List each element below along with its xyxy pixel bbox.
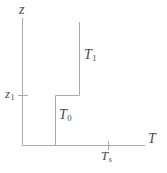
z-axis-label: z bbox=[19, 3, 24, 17]
t-axis-label: T bbox=[148, 132, 156, 146]
z1-tick-label: z1 bbox=[5, 87, 15, 100]
t0-subscript: 0 bbox=[67, 113, 72, 123]
ts-subscript: s bbox=[108, 155, 112, 164]
temperature-profile-diagram: z T z1 T1 T0 Ts bbox=[0, 0, 167, 173]
t0-base: T bbox=[59, 107, 67, 122]
t1-curve-label: T1 bbox=[84, 48, 97, 62]
t0-curve-label: T0 bbox=[59, 108, 72, 122]
temperature-profile-curve bbox=[56, 22, 80, 146]
diagram-canvas bbox=[0, 0, 167, 173]
ts-tick-label: Ts bbox=[101, 149, 112, 162]
t1-subscript: 1 bbox=[92, 53, 97, 63]
z1-subscript: 1 bbox=[10, 93, 15, 102]
t1-base: T bbox=[84, 47, 92, 62]
